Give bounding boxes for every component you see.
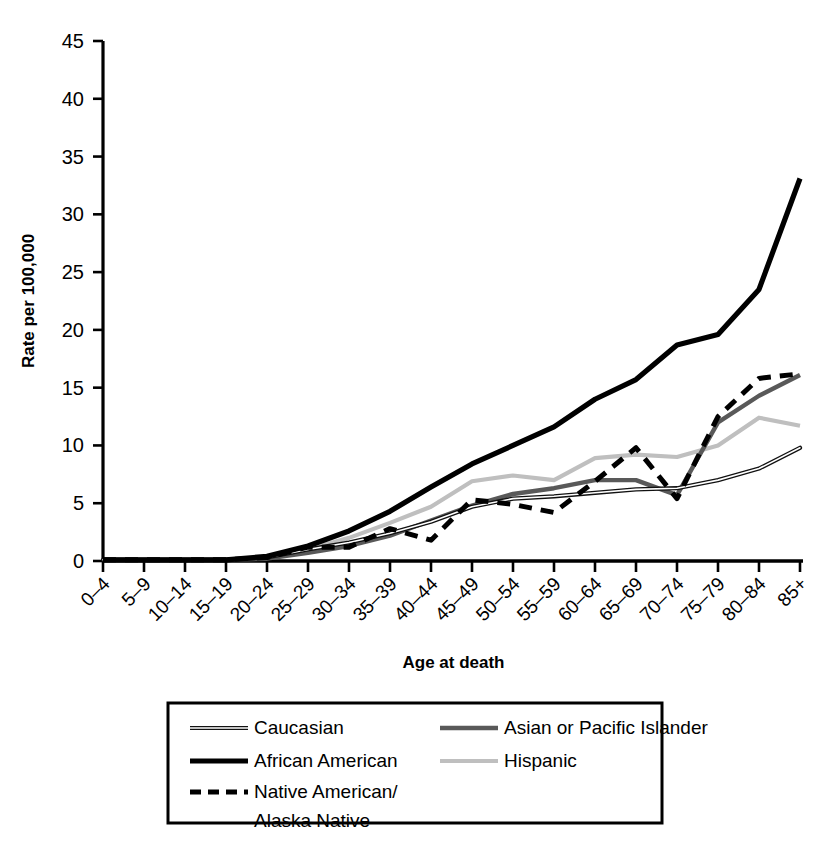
- legend-label-caucasian: Caucasian: [254, 717, 344, 738]
- legend-label-native-american-line2: Alaska Native: [254, 810, 370, 831]
- x-tick-label: 40–44: [390, 573, 443, 626]
- x-tick-label: 85+: [773, 573, 811, 611]
- x-tick-label: 30–34: [308, 573, 361, 626]
- y-tick-label: 15: [62, 377, 84, 399]
- x-tick-label: 35–39: [349, 573, 401, 625]
- legend-label-asian-or-pacific-islander: Asian or Pacific Islander: [504, 717, 708, 738]
- x-tick-label: 80–84: [718, 573, 771, 626]
- x-tick-label: 55–59: [513, 573, 565, 625]
- x-tick-label: 65–69: [595, 573, 647, 625]
- y-tick-label: 45: [62, 30, 84, 52]
- x-tick-label: 75–79: [677, 573, 729, 625]
- chart-legend: CaucasianAsian or Pacific IslanderAfrica…: [168, 703, 708, 831]
- y-axis-title: Rate per 100,000: [19, 234, 38, 368]
- chart-figure: 051015202530354045Rate per 100,0000–45–9…: [0, 0, 829, 858]
- x-axis-ticks: 0–45–910–1415–1920–2425–2930–3435–3940–4…: [77, 561, 811, 625]
- y-tick-label: 0: [73, 550, 84, 572]
- y-tick-label: 25: [62, 261, 84, 283]
- y-axis-ticks: 051015202530354045: [62, 30, 103, 572]
- x-tick-label: 45–49: [431, 573, 483, 625]
- x-axis-title: Age at death: [402, 653, 504, 672]
- y-tick-label: 10: [62, 434, 84, 456]
- y-tick-label: 5: [73, 492, 84, 514]
- legend-label-african-american: African American: [254, 750, 398, 771]
- x-tick-label: 15–19: [185, 573, 237, 625]
- x-tick-label: 10–14: [144, 573, 197, 626]
- chart-series-group: [103, 179, 800, 560]
- legend-label-native-american: Native American/: [254, 781, 398, 802]
- x-tick-label: 0–4: [77, 573, 115, 611]
- x-tick-label: 50–54: [472, 573, 525, 626]
- series-line-native-american-alaska-native: [103, 374, 800, 560]
- x-tick-label: 60–64: [554, 573, 607, 626]
- x-tick-label: 20–24: [226, 573, 279, 626]
- series-line-asian-or-pacific-islander: [103, 375, 800, 560]
- y-tick-label: 40: [62, 88, 84, 110]
- x-tick-label: 70–74: [636, 573, 689, 626]
- legend-label-hispanic: Hispanic: [504, 750, 577, 771]
- series-line-hispanic: [103, 418, 800, 560]
- y-tick-label: 35: [62, 146, 84, 168]
- series-line-african-american: [103, 179, 800, 560]
- line-chart: 051015202530354045Rate per 100,0000–45–9…: [0, 0, 829, 858]
- x-tick-label: 25–29: [267, 573, 319, 625]
- y-tick-label: 20: [62, 319, 84, 341]
- y-tick-label: 30: [62, 203, 84, 225]
